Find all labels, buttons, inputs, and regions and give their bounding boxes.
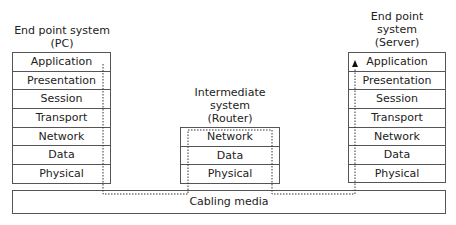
arrow-up-icon xyxy=(352,60,358,67)
data-flow-path xyxy=(0,0,456,225)
